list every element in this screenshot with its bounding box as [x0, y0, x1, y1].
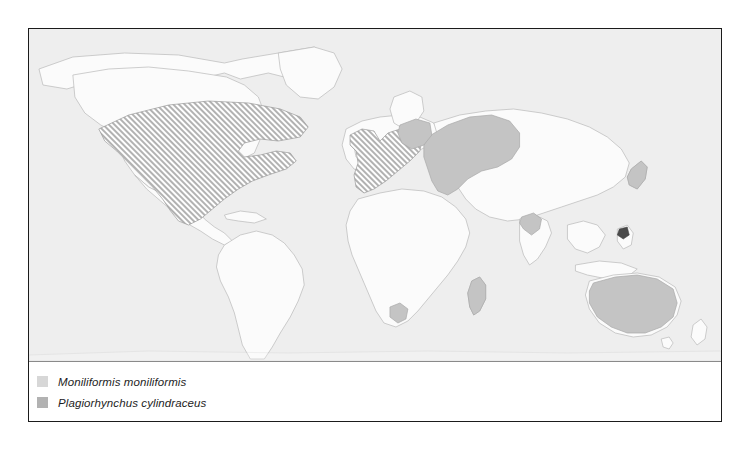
legend-item-plagiorhynchus: Plagiorhynchus cylindraceus: [37, 393, 721, 412]
legend-swatch-moniliformis: [37, 376, 48, 387]
distribution-map-figure: Moniliformis moniliformis Plagiorhynchus…: [28, 28, 722, 422]
world-map: [29, 29, 721, 361]
legend-label-plagiorhynchus: Plagiorhynchus cylindraceus: [58, 397, 206, 409]
landmass-antarctica-edge: [29, 351, 721, 361]
legend-panel: Moniliformis moniliformis Plagiorhynchus…: [29, 362, 721, 421]
legend-swatch-plagiorhynchus: [37, 397, 48, 408]
map-panel: [29, 29, 721, 361]
legend-label-moniliformis: Moniliformis moniliformis: [58, 376, 186, 388]
legend-item-moniliformis: Moniliformis moniliformis: [37, 372, 721, 391]
